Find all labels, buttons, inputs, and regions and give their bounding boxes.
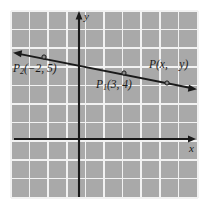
coordinate-plane-figure: y x P2(−2, 5) P1(3, 4) P(x, y) <box>0 0 210 209</box>
line-end-arrowhead <box>188 85 197 92</box>
point-label-p: P(x, y) <box>149 59 188 71</box>
point-marker-p <box>165 81 169 85</box>
point-marker-p1 <box>122 71 126 75</box>
x-axis-label: x <box>189 143 194 154</box>
line-start-arrowhead <box>13 50 22 57</box>
point-label-p2: P2(−2, 5) <box>13 63 57 76</box>
graph-overlay <box>0 0 210 209</box>
y-axis-arrowhead <box>76 11 83 20</box>
point-marker-p2 <box>42 55 46 59</box>
y-axis-label: y <box>84 11 89 22</box>
point-label-p1: P1(3, 4) <box>96 79 132 92</box>
